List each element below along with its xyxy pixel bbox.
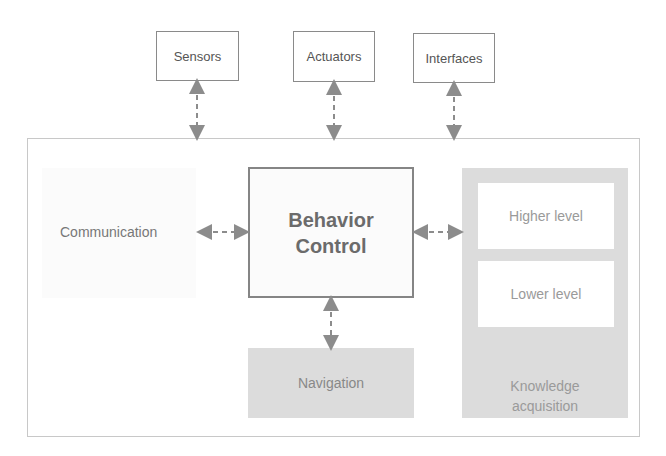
arrows-layer xyxy=(0,0,666,456)
